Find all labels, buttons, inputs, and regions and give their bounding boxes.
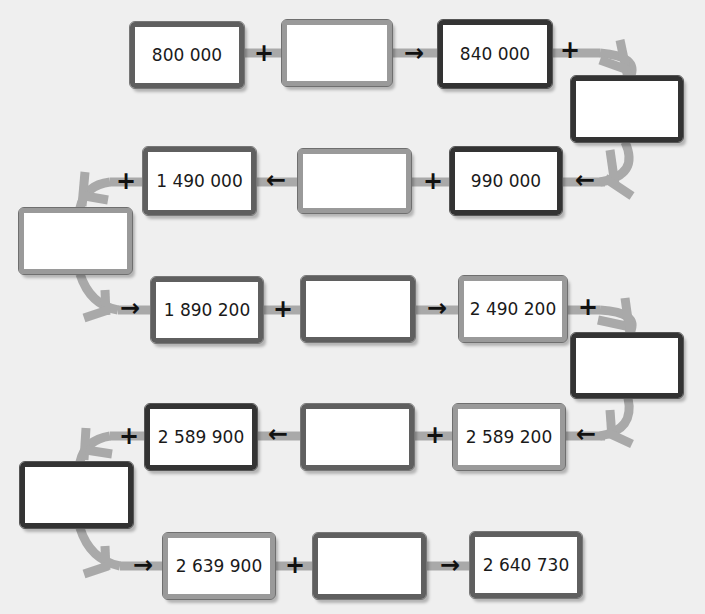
plus-operator: +	[421, 169, 445, 193]
blank-answer-box[interactable]	[301, 404, 414, 470]
blank-answer-box[interactable]	[571, 76, 683, 142]
number-box: 840 000	[438, 20, 552, 88]
blank-answer-box[interactable]	[20, 462, 133, 528]
blank-answer-box[interactable]	[282, 20, 392, 86]
blank-answer-box[interactable]	[301, 276, 415, 342]
arrow-right-icon: →	[118, 296, 142, 320]
plus-operator: +	[576, 295, 600, 319]
plus-operator: +	[283, 553, 307, 577]
arrow-right-icon: →	[438, 553, 462, 577]
box-value: 2 639 900	[176, 556, 263, 576]
plus-operator: +	[114, 169, 138, 193]
blank-answer-box[interactable]	[19, 208, 132, 274]
plus-operator: +	[252, 41, 276, 65]
box-value: 990 000	[471, 171, 541, 191]
arrow-right-icon: →	[402, 41, 426, 65]
number-box: 2 640 730	[470, 532, 582, 598]
arrow-right-icon: →	[131, 553, 155, 577]
box-value: 1 890 200	[164, 300, 251, 320]
number-box: 800 000	[130, 22, 244, 88]
plus-operator: +	[423, 423, 447, 447]
box-value: 2 640 730	[483, 555, 570, 575]
plus-operator: +	[117, 424, 141, 448]
box-value: 1 490 000	[156, 171, 243, 191]
number-box: 1 490 000	[143, 147, 256, 215]
number-box: 2 589 900	[145, 404, 257, 470]
box-value: 2 589 200	[466, 427, 553, 447]
arrow-left-icon: ←	[574, 422, 598, 446]
plus-operator: +	[558, 38, 582, 62]
number-box: 2 639 900	[163, 533, 275, 599]
blank-answer-box[interactable]	[298, 149, 411, 213]
number-box: 1 890 200	[151, 277, 263, 343]
arrow-right-icon: →	[425, 296, 449, 320]
box-value: 800 000	[152, 45, 222, 65]
number-box: 2 490 200	[459, 276, 567, 342]
blank-answer-box[interactable]	[571, 333, 683, 398]
arrow-left-icon: ←	[573, 168, 597, 192]
blank-answer-box[interactable]	[313, 533, 426, 599]
arrow-left-icon: ←	[264, 168, 288, 192]
plus-operator: +	[271, 297, 295, 321]
number-box: 990 000	[450, 147, 562, 215]
number-box: 2 589 200	[453, 404, 565, 470]
arrow-left-icon: ←	[266, 422, 290, 446]
box-value: 2 490 200	[470, 299, 557, 319]
box-value: 2 589 900	[158, 427, 245, 447]
box-value: 840 000	[460, 44, 530, 64]
